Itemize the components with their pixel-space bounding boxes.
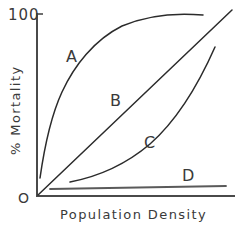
- chart-container: 100 O Population Density % Mortality A B…: [0, 0, 235, 228]
- mortality-density-plot: 100 O Population Density % Mortality A B…: [0, 0, 235, 228]
- y-axis-title: % Mortality: [8, 66, 23, 155]
- x-axis-title: Population Density: [60, 207, 207, 222]
- series-label-c: C: [144, 133, 156, 152]
- series-label-d: D: [182, 166, 195, 185]
- series-curve-d: [50, 186, 226, 189]
- y-axis-tick-label-100: 100: [8, 6, 40, 24]
- series-curve-b: [38, 10, 232, 195]
- series-curve-c: [70, 47, 215, 182]
- origin-label: O: [18, 190, 30, 206]
- series-label-a: A: [66, 47, 78, 66]
- series-label-b: B: [110, 91, 122, 110]
